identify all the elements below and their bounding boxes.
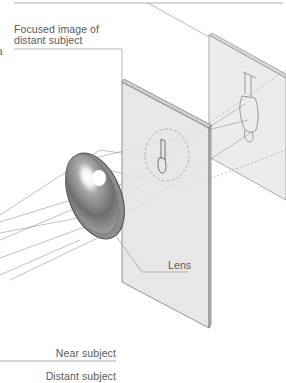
focused-image-label-line2: distant subject xyxy=(14,35,99,46)
focused-image-label: Focused image of distant subject xyxy=(14,24,99,46)
focused-image-leader-line xyxy=(14,49,122,82)
lens-label: Lens xyxy=(168,260,191,271)
near-subject-label: Near subject xyxy=(56,348,116,359)
left-fragment-text: a xyxy=(0,46,3,57)
distant-subject-label: Distant subject xyxy=(46,371,116,382)
far-image-screen xyxy=(209,33,286,200)
optics-diagram xyxy=(0,0,286,383)
near-image-screen xyxy=(122,79,211,328)
